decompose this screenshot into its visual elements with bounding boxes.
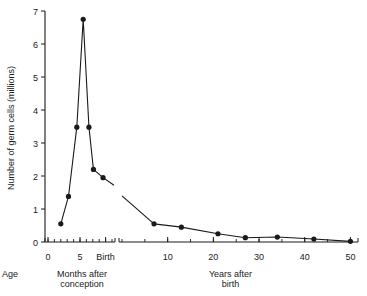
- y-axis-title: Number of germ cells (millions): [6, 66, 16, 190]
- data-point: [275, 234, 280, 239]
- germ-cell-chart: 01234567 05BirthMonths afterconception 1…: [0, 0, 367, 296]
- data-point: [86, 125, 91, 130]
- x-tick-label: 20: [208, 252, 218, 262]
- series-line: [122, 196, 350, 242]
- y-tick-label: 0: [33, 238, 38, 248]
- x-tick-label: 5: [77, 252, 82, 262]
- x-tick-label: 30: [254, 252, 264, 262]
- data-point: [215, 231, 220, 236]
- x-tick-label: Birth: [96, 252, 115, 262]
- x-tick-label: 40: [300, 252, 310, 262]
- postnatal-panel: 1020304050Years afterbirth: [119, 196, 358, 289]
- data-point: [91, 167, 96, 172]
- chart-canvas: 01234567 05BirthMonths afterconception 1…: [0, 0, 367, 296]
- x-axis-title-line2: birth: [222, 279, 240, 289]
- data-point: [179, 225, 184, 230]
- data-point: [74, 125, 79, 130]
- y-tick-label: 3: [33, 139, 38, 149]
- data-point: [311, 236, 316, 241]
- x-tick-label: 0: [45, 252, 50, 262]
- y-tick-label: 6: [33, 40, 38, 50]
- data-point: [151, 221, 156, 226]
- data-point: [81, 17, 86, 22]
- y-axis: 01234567: [33, 7, 45, 248]
- x-axis-title-line1: Months after: [57, 269, 107, 279]
- x-axis-title-line2: conception: [60, 279, 104, 289]
- data-point: [66, 194, 71, 199]
- data-point: [243, 235, 248, 240]
- y-tick-label: 2: [33, 172, 38, 182]
- x-axis-overall-label: Age: [2, 269, 18, 279]
- x-tick-label: 50: [345, 252, 355, 262]
- data-point: [58, 221, 63, 226]
- x-tick-label: 10: [163, 252, 173, 262]
- y-tick-label: 5: [33, 73, 38, 83]
- x-axis-title-line1: Years after: [209, 269, 252, 279]
- prenatal-panel: 05BirthMonths afterconception: [45, 17, 115, 289]
- data-point: [100, 175, 105, 180]
- y-tick-label: 7: [33, 7, 38, 17]
- y-tick-label: 1: [33, 205, 38, 215]
- data-point: [348, 239, 353, 244]
- y-tick-label: 4: [33, 106, 38, 116]
- series-line: [61, 19, 114, 224]
